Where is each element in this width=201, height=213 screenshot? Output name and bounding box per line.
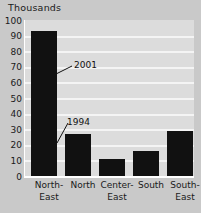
ytick-80: 80 xyxy=(0,47,22,57)
plot-area xyxy=(24,20,194,176)
ytick-100: 100 xyxy=(0,16,22,26)
ytick-60: 60 xyxy=(0,78,22,88)
xtick-north-east-line2: East xyxy=(19,192,79,204)
xtick-south-east: South- East xyxy=(155,180,201,203)
ytick-10: 10 xyxy=(0,156,22,166)
ytick-50: 50 xyxy=(0,94,22,104)
bar-south[interactable] xyxy=(133,151,159,176)
bar-chart: Thousands 100 90 80 70 60 50 40 30 20 10… xyxy=(0,0,201,213)
ytick-20: 20 xyxy=(0,140,22,150)
ytick-40: 40 xyxy=(0,109,22,119)
xtick-south-east-line1: South- xyxy=(155,180,201,192)
annotation-2001: 2001 xyxy=(74,60,97,70)
annotation-1994: 1994 xyxy=(67,117,90,127)
bar-south-east[interactable] xyxy=(167,131,193,176)
xtick-south-east-line2: East xyxy=(155,192,201,204)
x-axis-ticks: North- East North Center- East South Sou… xyxy=(24,180,194,213)
xtick-center-east-line2: East xyxy=(87,192,147,204)
bar-center-east[interactable] xyxy=(99,159,125,176)
bar-north-east[interactable] xyxy=(31,31,57,176)
ytick-30: 30 xyxy=(0,125,22,135)
x-axis-baseline xyxy=(24,176,194,178)
bar-north[interactable] xyxy=(65,134,91,176)
ytick-70: 70 xyxy=(0,62,22,72)
ytick-90: 90 xyxy=(0,31,22,41)
